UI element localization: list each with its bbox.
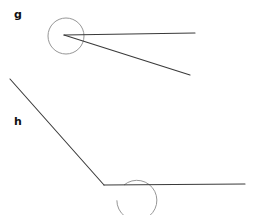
angle-label-h: h: [14, 116, 22, 127]
figure-canvas: g h: [0, 0, 254, 215]
angles-figure: [0, 0, 254, 215]
angle-h-group: [10, 79, 245, 215]
ray-h-upleft: [10, 79, 104, 185]
angle-g-group: [48, 18, 195, 75]
angle-h-reflex-arc: [117, 180, 157, 215]
angle-label-g: g: [14, 9, 22, 20]
ray-g-descending: [64, 35, 190, 75]
